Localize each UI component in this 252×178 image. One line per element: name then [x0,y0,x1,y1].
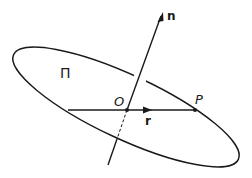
point-p [193,108,197,112]
plane-label: Π [60,65,71,81]
point-origin [125,108,129,112]
normal-label: n [167,9,176,23]
point-p-label: P [195,92,203,107]
normal-hidden-dashed [117,110,127,139]
normal-arrowhead-icon [158,12,164,22]
origin-label: O [114,94,124,109]
plane-ellipse [0,26,252,178]
normal-vector-line [127,16,161,110]
vector-r-label: r [145,114,151,128]
plane-normal-diagram: Π n O P r [0,0,252,178]
normal-lower-line [108,139,117,165]
vector-r-arrowhead-icon [143,107,152,114]
